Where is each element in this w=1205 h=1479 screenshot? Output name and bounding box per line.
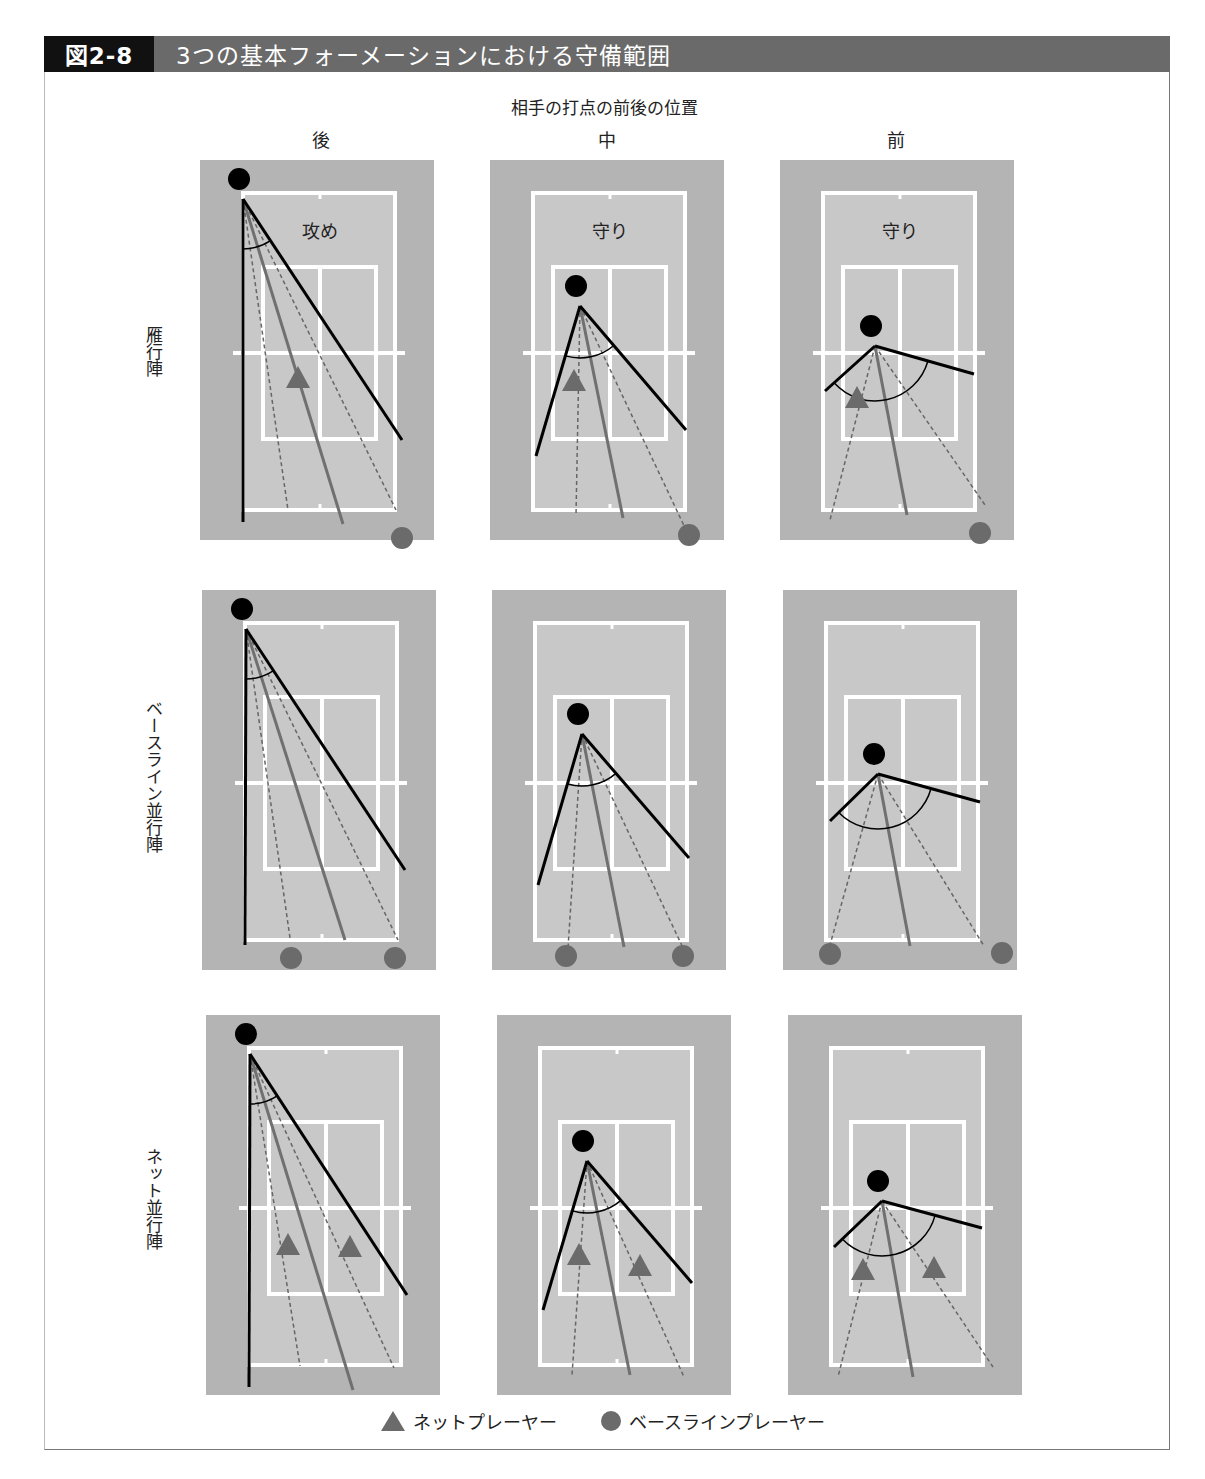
court-panel-r1-c1 <box>492 590 726 970</box>
opponent-hitter-icon <box>567 703 589 725</box>
legend-net-player-label: ネットプレーヤー <box>413 1408 557 1434</box>
court-panel-r1-c0 <box>202 590 436 970</box>
opponent-hitter-icon <box>231 598 253 620</box>
opponent-hitter-icon <box>572 1130 594 1152</box>
court-panel-r1-c2 <box>783 590 1017 970</box>
baseline-player-circle-icon <box>391 527 413 549</box>
baseline-player-circle-icon <box>819 943 841 965</box>
baseline-player-circle-icon <box>991 942 1013 964</box>
court-panel-r0-c0: 攻め <box>200 160 434 549</box>
panel-label: 攻め <box>302 221 338 242</box>
court-panel-r2-c2 <box>788 1015 1022 1395</box>
panel-label: 守り <box>882 221 918 242</box>
opponent-hitter-icon <box>565 275 587 297</box>
legend-baseline-player: ベースラインプレーヤー <box>601 1408 825 1434</box>
court-panel-r0-c1: 守り <box>490 160 724 546</box>
baseline-player-circle-icon <box>555 945 577 967</box>
circle-icon <box>601 1411 621 1431</box>
baseline-player-circle-icon <box>672 945 694 967</box>
baseline-player-circle-icon <box>384 947 406 969</box>
baseline-player-circle-icon <box>678 524 700 546</box>
panel-label: 守り <box>592 221 628 242</box>
baseline-player-circle-icon <box>969 522 991 544</box>
opponent-hitter-icon <box>235 1023 257 1045</box>
legend-baseline-player-label: ベースラインプレーヤー <box>629 1408 825 1434</box>
court-panel-r0-c2: 守り <box>780 160 1014 544</box>
baseline-player-circle-icon <box>280 947 302 969</box>
court-panel-r2-c1 <box>497 1015 731 1395</box>
court-panel-r2-c0 <box>206 1015 440 1395</box>
court-diagrams: 攻め守り守り <box>0 0 1205 1479</box>
opponent-hitter-icon <box>228 168 250 190</box>
opponent-hitter-icon <box>863 743 885 765</box>
opponent-hitter-icon <box>867 1170 889 1192</box>
opponent-hitter-icon <box>860 315 882 337</box>
triangle-icon <box>381 1411 405 1431</box>
legend-net-player: ネットプレーヤー <box>381 1408 557 1434</box>
legend: ネットプレーヤー ベースラインプレーヤー <box>0 1408 1205 1434</box>
